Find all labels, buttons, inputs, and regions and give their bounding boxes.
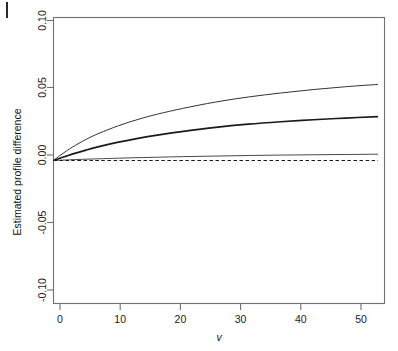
curve-middle-curve [54, 117, 379, 161]
x-axis-tick-labels: 0 10 20 30 40 50 [57, 313, 367, 325]
y-tick-label: 0.10 [36, 10, 48, 31]
y-tick-label: 0.00 [36, 145, 48, 166]
x-tick-label: 40 [295, 313, 307, 325]
x-tick-label: 0 [57, 313, 63, 325]
y-tick-label: -0.05 [36, 210, 48, 234]
y-axis-tick-labels: 0.10 0.05 0.00 -0.05 -0.10 [36, 10, 48, 302]
x-axis-ticks [60, 304, 361, 311]
curve-upper-curve [54, 84, 379, 160]
y-tick-label: 0.05 [36, 77, 48, 98]
chart-figure: 0.10 0.05 0.00 -0.05 -0.10 Estimated pro… [0, 0, 398, 351]
data-curves [54, 84, 379, 160]
x-tick-label: 20 [175, 313, 187, 325]
y-tick-label: -0.10 [36, 278, 48, 302]
chart-svg: 0.10 0.05 0.00 -0.05 -0.10 Estimated pro… [0, 0, 398, 351]
curve-lower-curve [54, 154, 379, 160]
x-tick-label: 10 [114, 313, 126, 325]
x-tick-label: 50 [355, 313, 367, 325]
y-axis-title: Estimated profile difference [11, 108, 23, 235]
x-axis-title: v [216, 331, 222, 343]
x-tick-label: 30 [235, 313, 247, 325]
